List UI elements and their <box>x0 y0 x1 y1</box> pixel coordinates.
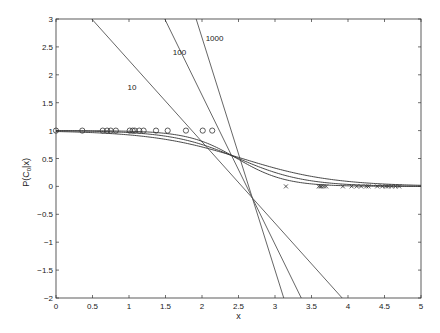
line-label-1000: 1000 <box>206 34 224 43</box>
x-tick-label: 2 <box>200 302 205 311</box>
x-tick-label: 1.5 <box>160 302 172 311</box>
data-markers <box>53 128 401 188</box>
y-tick-label: 0.5 <box>42 155 54 164</box>
x-tick-label: 4.5 <box>379 302 391 311</box>
y-tick-label: 0 <box>49 182 54 191</box>
line-labels: 101001000 <box>128 34 224 92</box>
x-tick-label: 0.5 <box>87 302 99 311</box>
chart-container: 101001000 00.511.522.533.544.55−2−1.5−1−… <box>0 0 440 333</box>
y-tick-label: 1.5 <box>42 99 54 108</box>
plot-svg: 101001000 00.511.522.533.544.55−2−1.5−1−… <box>0 0 440 333</box>
y-tick-label: 2 <box>49 71 54 80</box>
x-tick-label: 1 <box>127 302 132 311</box>
y-axis-label: P(C0|x) <box>21 158 32 187</box>
x-tick-label: 5 <box>419 302 424 311</box>
y-tick-label: −2 <box>44 294 54 303</box>
sigmoid-curves <box>56 131 421 187</box>
x-tick-label: 3.5 <box>306 302 318 311</box>
circle-marker <box>165 128 170 133</box>
axes: 00.511.522.533.544.55−2−1.5−1−0.500.511.… <box>37 15 424 311</box>
line-label-10: 10 <box>128 83 137 92</box>
y-axis-label-tail: |x) <box>21 158 31 168</box>
fit-line-100 <box>165 19 302 298</box>
y-tick-label: −0.5 <box>37 210 53 219</box>
x-marker <box>341 184 345 188</box>
x-axis-label: x <box>236 311 241 321</box>
linear-fit-lines <box>92 19 342 298</box>
circle-marker <box>183 128 188 133</box>
x-marker <box>284 184 288 188</box>
x-tick-label: 4 <box>346 302 351 311</box>
fit-line-10 <box>92 19 342 298</box>
circle-marker <box>200 128 205 133</box>
x-tick-label: 2.5 <box>233 302 245 311</box>
x-tick-label: 0 <box>54 302 59 311</box>
y-tick-label: 3 <box>49 15 54 24</box>
y-tick-label: 2.5 <box>42 43 54 52</box>
y-axis-label-main: P(C <box>21 171 31 187</box>
x-tick-label: 3 <box>273 302 278 311</box>
circle-marker <box>210 128 215 133</box>
fit-line-1000 <box>196 19 284 298</box>
sigmoid-b-curve <box>56 131 421 186</box>
y-tick-label: −1.5 <box>37 266 53 275</box>
line-label-100: 100 <box>173 48 187 57</box>
y-tick-label: 1 <box>49 127 54 136</box>
y-tick-label: −1 <box>44 238 54 247</box>
